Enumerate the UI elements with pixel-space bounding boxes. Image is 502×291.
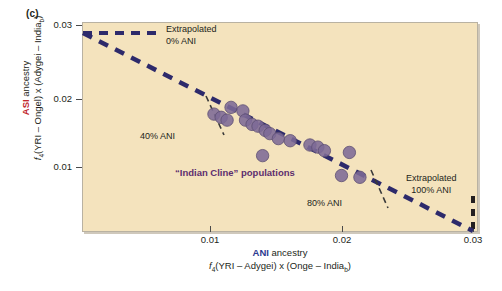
x-tick-label-0.03: 0.03 bbox=[453, 234, 493, 245]
x-tickmark-0.01 bbox=[210, 226, 211, 232]
x-axis-formula-body: (YRI – Adygei) x (Onge – India bbox=[215, 260, 344, 271]
annotation-40-ani: 40% ANI bbox=[140, 131, 175, 143]
y-tickmark-0.02 bbox=[76, 99, 82, 100]
y-axis-formula-sub2: b bbox=[38, 19, 45, 23]
y-tickmark-0.01 bbox=[76, 167, 82, 168]
x-tickmark-0.02 bbox=[342, 226, 343, 232]
y-axis-formula-f: f bbox=[32, 158, 43, 161]
annotation-extrapolated-0-line1: Extrapolated bbox=[166, 24, 217, 36]
y-axis-label-suffix: ancestry bbox=[20, 61, 31, 100]
annotation-extrapolated-100-line2: 100% ANI bbox=[406, 185, 457, 197]
y-tickmark-0.03 bbox=[76, 25, 82, 26]
x-axis-label-suffix: ancestry bbox=[269, 247, 308, 258]
annotation-extrapolated-0-line2: 0% ANI bbox=[166, 36, 217, 48]
y-axis-accent: ASI bbox=[20, 99, 31, 115]
annotation-extrapolated-100: Extrapolated 100% ANI bbox=[406, 173, 457, 196]
annotation-indian-cline: “Indian Cline” populations bbox=[175, 167, 295, 178]
annotation-extrapolated-100-line1: Extrapolated bbox=[406, 173, 457, 185]
figure-panel-c: (c) 0.03 0.02 0.01 0.01 0.02 0.03 ASI an… bbox=[0, 0, 502, 291]
plot-area bbox=[82, 22, 478, 232]
y-axis-formula-body: (YRI – Ongel) x (Adygei – India bbox=[32, 22, 43, 153]
x-axis-title: ANI ancestry f4(YRI – Adygei) x (Onge – … bbox=[82, 247, 478, 276]
x-axis-formula-end: ) bbox=[348, 260, 351, 271]
y-axis-formula-sub: 4 bbox=[38, 154, 45, 158]
annotation-80-ani: 80% ANI bbox=[307, 198, 342, 210]
x-tick-label-0.02: 0.02 bbox=[322, 234, 362, 245]
y-axis-formula-end: ) bbox=[32, 16, 43, 19]
y-axis-title: ASI ancestry f4(YRI – Ongel) x (Adygei –… bbox=[20, 0, 48, 183]
x-axis-accent: ANI bbox=[253, 247, 269, 258]
annotation-extrapolated-0: Extrapolated 0% ANI bbox=[166, 24, 217, 47]
x-tickmark-0.03 bbox=[473, 226, 474, 232]
x-tick-label-0.01: 0.01 bbox=[190, 234, 230, 245]
